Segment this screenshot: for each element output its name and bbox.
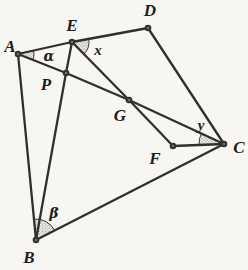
segment-AB (18, 54, 36, 240)
segment-BC (36, 144, 224, 240)
point-C (221, 141, 228, 148)
label-y: y (196, 117, 205, 133)
point-E (69, 39, 76, 46)
label-alpha: α (44, 48, 55, 64)
label-E: E (65, 16, 77, 35)
label-G: G (114, 106, 127, 125)
label-B: B (22, 248, 34, 267)
label-x: x (93, 42, 102, 58)
point-B (33, 237, 40, 244)
diagram-canvas: A B C D E F G P α β x y (0, 0, 248, 270)
label-P: P (40, 75, 52, 94)
segment-APGC (18, 54, 224, 144)
label-A: A (3, 37, 15, 56)
point-F (170, 143, 177, 150)
label-D: D (143, 1, 156, 20)
segment-EGF (72, 42, 173, 146)
point-A (15, 51, 22, 58)
point-G (126, 97, 133, 104)
label-beta: β (48, 205, 59, 221)
label-F: F (148, 149, 161, 168)
geometry-figure: A B C D E F G P α β x y (0, 0, 248, 270)
point-D (145, 25, 152, 32)
segment-FC (173, 144, 224, 146)
point-P (63, 70, 70, 77)
label-C: C (233, 138, 245, 157)
